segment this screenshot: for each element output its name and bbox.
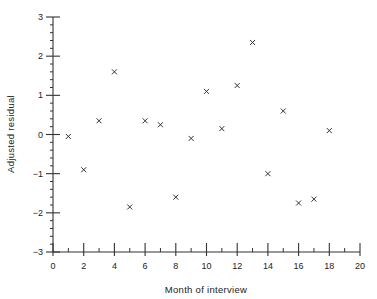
x-tick-label: 18 [324,261,334,271]
y-tick-label: −1 [33,169,43,179]
x-tick-label: 14 [263,261,273,271]
data-point-x-marker [189,136,194,141]
data-point-x-marker [311,197,316,202]
data-point-x-marker [66,134,71,139]
x-tick-label: 12 [232,261,242,271]
data-point-x-marker [127,204,132,209]
data-point-x-marker [281,109,286,114]
data-point-x-marker [81,167,86,172]
data-point-x-marker [158,122,163,127]
x-tick-label: 8 [173,261,178,271]
data-point-x-marker [173,195,178,200]
y-tick-label: 2 [38,51,43,61]
data-point-x-marker [265,171,270,176]
data-point-x-marker [204,89,209,94]
x-tick-label: 6 [143,261,148,271]
x-axis-ticks: 02468101214161820 [50,243,365,271]
x-tick-label: 0 [50,261,55,271]
y-tick-label: 0 [38,130,43,140]
x-axis-title: Month of interview [165,284,248,295]
data-point-x-marker [143,118,148,123]
x-tick-label: 2 [81,261,86,271]
data-points [66,40,332,210]
data-point-x-marker [327,128,332,133]
y-axis-title: Adjusted residual [5,95,16,173]
x-tick-label: 4 [112,261,117,271]
data-point-x-marker [296,201,301,206]
x-tick-label: 10 [201,261,211,271]
y-axis-ticks: −3−2−10123 [33,12,60,257]
data-point-x-marker [97,118,102,123]
data-point-x-marker [219,126,224,131]
data-point-x-marker [250,40,255,45]
y-tick-label: 1 [38,90,43,100]
data-point-x-marker [112,69,117,74]
axes [53,17,360,252]
x-tick-label: 16 [294,261,304,271]
y-tick-label: −3 [33,247,43,257]
data-point-x-marker [235,83,240,88]
y-tick-label: 3 [38,12,43,22]
x-tick-label: 20 [355,261,365,271]
y-tick-label: −2 [33,208,43,218]
scatter-chart: −3−2−10123 02468101214161820 Month of in… [0,0,377,299]
